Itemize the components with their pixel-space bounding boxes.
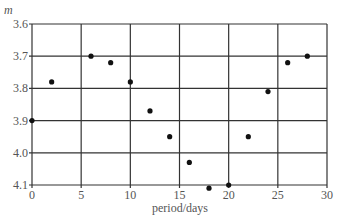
data-point bbox=[147, 108, 152, 113]
y-tick-label: 3.8 bbox=[13, 81, 28, 95]
data-point bbox=[167, 134, 172, 139]
scatter-chart: 3.63.73.83.94.04.1 051015202530 m period… bbox=[0, 0, 338, 224]
data-point bbox=[88, 54, 93, 59]
data-point bbox=[108, 60, 113, 65]
data-point bbox=[246, 134, 251, 139]
x-tick-label: 30 bbox=[321, 188, 333, 202]
y-tick-label: 3.9 bbox=[13, 114, 28, 128]
data-point bbox=[29, 118, 34, 123]
data-point bbox=[128, 79, 133, 84]
y-axis-ticks: 3.63.73.83.94.04.1 bbox=[13, 17, 28, 192]
x-tick-label: 20 bbox=[223, 188, 235, 202]
x-axis-label: period/days bbox=[152, 201, 208, 215]
x-tick-label: 25 bbox=[272, 188, 284, 202]
y-tick-label: 4.0 bbox=[13, 146, 28, 160]
data-point bbox=[226, 182, 231, 187]
y-tick-label: 3.6 bbox=[13, 17, 28, 31]
data-point bbox=[305, 54, 310, 59]
y-axis-label: m bbox=[4, 3, 13, 17]
x-tick-label: 10 bbox=[124, 188, 136, 202]
data-point bbox=[285, 60, 290, 65]
y-tick-label: 4.1 bbox=[13, 178, 28, 192]
chart-svg: 3.63.73.83.94.04.1 051015202530 m period… bbox=[0, 0, 338, 224]
data-point bbox=[187, 160, 192, 165]
x-tick-label: 0 bbox=[29, 188, 35, 202]
data-point bbox=[206, 186, 211, 191]
data-point bbox=[49, 79, 54, 84]
data-points bbox=[29, 54, 310, 191]
y-tick-label: 3.7 bbox=[13, 49, 28, 63]
grid-lines bbox=[29, 24, 327, 188]
x-tick-label: 5 bbox=[78, 188, 84, 202]
data-point bbox=[265, 89, 270, 94]
x-axis-ticks: 051015202530 bbox=[29, 188, 333, 202]
x-tick-label: 15 bbox=[174, 188, 186, 202]
